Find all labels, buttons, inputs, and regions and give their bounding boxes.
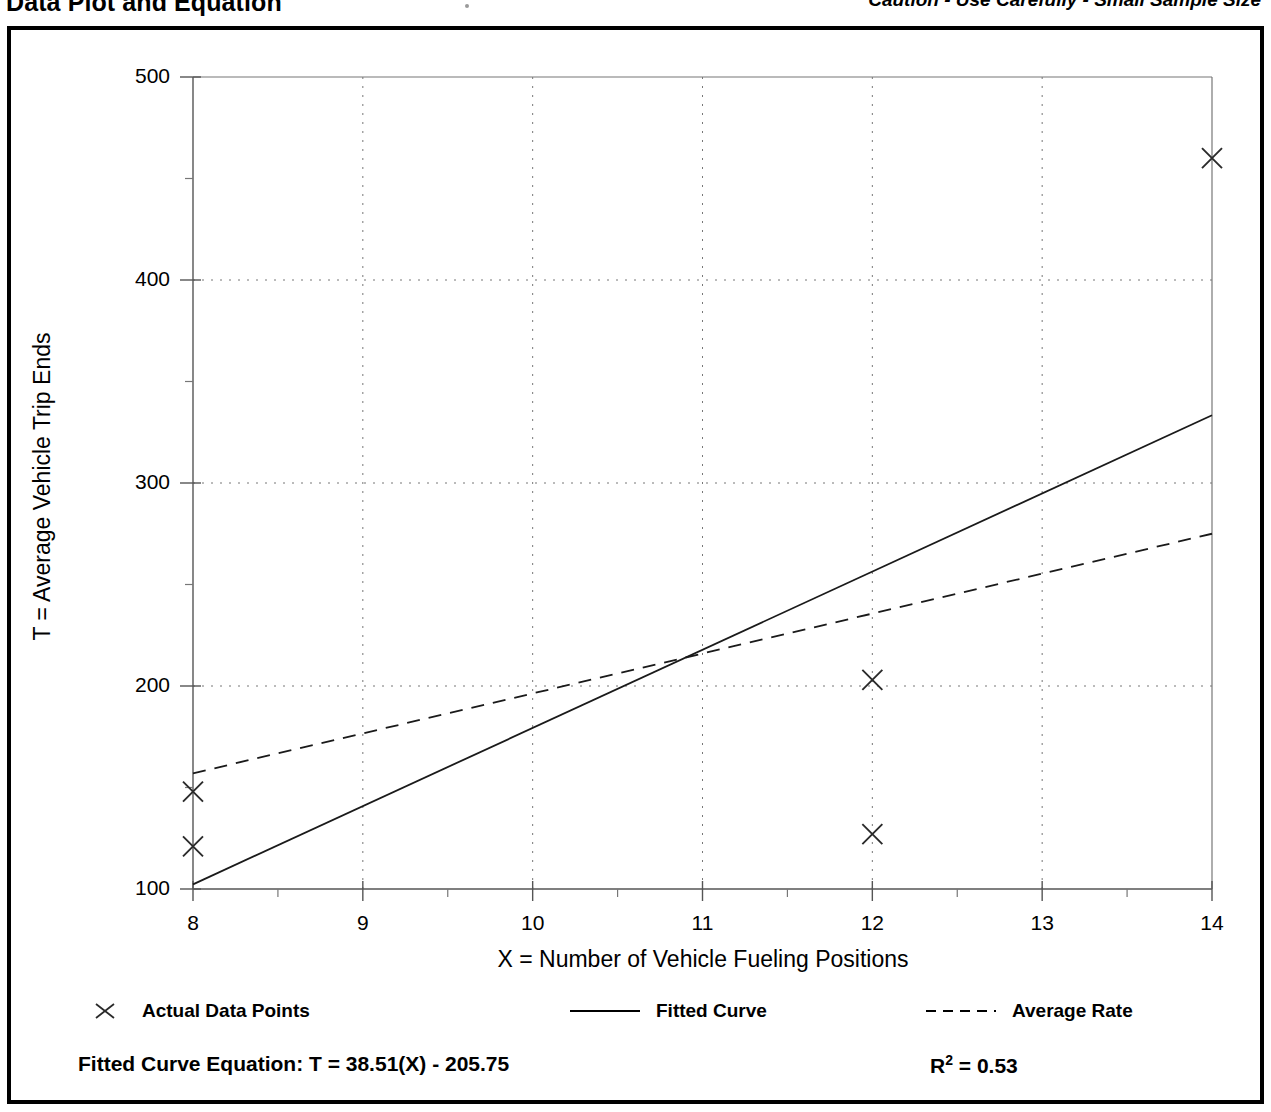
x-tick-label-9: 9 <box>333 911 393 935</box>
x-tick-label-8: 8 <box>163 911 223 935</box>
y-tick-label-300: 300 <box>100 470 170 494</box>
x-tick-label-11: 11 <box>673 911 733 935</box>
x-marker-icon <box>88 1001 124 1021</box>
scan-speck <box>465 4 469 8</box>
r-squared-exponent: 2 <box>945 1052 953 1068</box>
chart-page: Data Plot and Equation Caution - Use Car… <box>0 0 1271 1112</box>
x-tick-label-10: 10 <box>503 911 563 935</box>
r-squared-number: = 0.53 <box>959 1054 1018 1077</box>
caution-note: Caution - Use Carefully - Small Sample S… <box>868 0 1261 11</box>
page-title: Data Plot and Equation <box>6 0 282 17</box>
chart-frame <box>7 26 1264 1104</box>
legend-label-fitted-curve: Fitted Curve <box>656 1000 767 1022</box>
legend-item-average-rate: Average Rate <box>924 994 1133 1028</box>
r-squared-value: R2 = 0.53 <box>930 1052 1018 1078</box>
y-tick-label-200: 200 <box>100 673 170 697</box>
legend-label-average-rate: Average Rate <box>1012 1000 1133 1022</box>
r-squared-symbol: R <box>930 1054 945 1077</box>
legend-item-fitted-curve: Fitted Curve <box>568 994 767 1028</box>
y-axis-title: T = Average Vehicle Trip Ends <box>29 277 56 697</box>
equation-row: Fitted Curve Equation: T = 38.51(X) - 20… <box>0 1052 1271 1092</box>
y-tick-label-400: 400 <box>100 267 170 291</box>
x-tick-label-13: 13 <box>1012 911 1072 935</box>
solid-line-icon <box>568 1001 642 1021</box>
y-tick-label-500: 500 <box>100 64 170 88</box>
page-header: Data Plot and Equation Caution - Use Car… <box>0 0 1271 22</box>
x-tick-label-12: 12 <box>842 911 902 935</box>
legend-item-actual-data-points: Actual Data Points <box>88 994 310 1028</box>
x-axis-title: X = Number of Vehicle Fueling Positions <box>193 946 1213 973</box>
chart-legend: Actual Data Points Fitted Curve Average … <box>0 994 1271 1034</box>
legend-label-actual-data-points: Actual Data Points <box>142 1000 310 1022</box>
x-tick-label-14: 14 <box>1182 911 1242 935</box>
fitted-curve-equation: Fitted Curve Equation: T = 38.51(X) - 20… <box>78 1052 509 1076</box>
dashed-line-icon <box>924 1001 998 1021</box>
y-tick-label-100: 100 <box>100 876 170 900</box>
